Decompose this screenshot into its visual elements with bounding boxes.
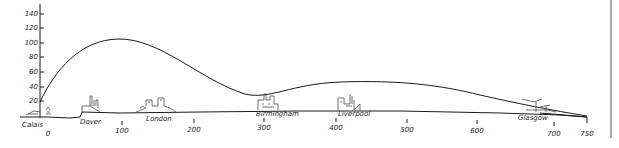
place-label-birmingham: Birmingham xyxy=(256,110,299,118)
calais-sketch-icon xyxy=(26,107,51,115)
birmingham-sketch-icon xyxy=(258,94,278,110)
x-tick-label: 100 xyxy=(115,127,129,135)
profile-curve xyxy=(40,39,587,116)
y-tick-label: 100 xyxy=(25,39,39,47)
place-label-dover: Dover xyxy=(80,118,102,126)
x-tick-label: 200 xyxy=(187,126,201,134)
y-axis: 140 120 100 80 60 40 20 xyxy=(25,4,44,118)
x-tick-label: 600 xyxy=(470,127,484,135)
y-tick-label: 40 xyxy=(29,83,38,91)
x-tick-label: 700 xyxy=(547,130,561,138)
y-ticks xyxy=(40,14,44,101)
london-sketch-icon xyxy=(136,98,176,112)
x-tick-label: 300 xyxy=(257,124,271,132)
y-tick-label: 140 xyxy=(25,10,39,18)
x-tick-label: 750 xyxy=(580,130,594,138)
place-label-calais: Calais xyxy=(22,121,43,129)
y-tick-label: 20 xyxy=(29,97,38,105)
place-label-london: London xyxy=(146,115,172,123)
liverpool-sketch-icon xyxy=(338,94,360,110)
dover-sketch-icon xyxy=(82,96,100,112)
x-tick-label: 500 xyxy=(400,126,414,134)
x-tick-label: 400 xyxy=(329,124,343,132)
y-tick-label: 60 xyxy=(29,68,38,76)
x-tick-label: 0 xyxy=(46,130,51,138)
y-tick-label: 80 xyxy=(29,53,38,61)
ground-line xyxy=(20,111,587,118)
place-label-liverpool: Liverpool xyxy=(338,110,370,118)
profile-chart: 140 120 100 80 60 40 20 0 100 200 300 40… xyxy=(0,0,619,148)
y-tick-label: 120 xyxy=(25,24,39,32)
place-label-glasgow: Glasgow xyxy=(518,114,548,122)
